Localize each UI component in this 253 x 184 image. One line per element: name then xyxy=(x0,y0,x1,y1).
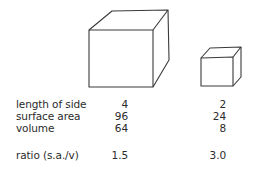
row-label: ratio (s.a./v) xyxy=(16,149,79,161)
row-label: volume xyxy=(16,122,54,134)
large-cube-value: 4 xyxy=(121,98,128,110)
row-ratio: ratio (s.a./v) 1.5 3.0 xyxy=(0,149,253,161)
row-volume: volume 64 8 xyxy=(0,122,253,134)
large-cube-value: 1.5 xyxy=(112,149,128,161)
row-surface-area: surface area 96 24 xyxy=(0,110,253,122)
small-cube-icon xyxy=(201,47,241,86)
large-cube-icon xyxy=(89,10,169,87)
row-label: surface area xyxy=(16,110,80,122)
small-cube-value: 3.0 xyxy=(210,149,226,161)
large-cube-value: 64 xyxy=(115,122,128,134)
row-length-of-side: length of side 4 2 xyxy=(0,98,253,110)
row-label: length of side xyxy=(16,98,86,110)
small-cube-value: 24 xyxy=(213,110,226,122)
small-cube-value: 2 xyxy=(219,98,226,110)
small-cube-value: 8 xyxy=(219,122,226,134)
large-cube-value: 96 xyxy=(115,110,128,122)
